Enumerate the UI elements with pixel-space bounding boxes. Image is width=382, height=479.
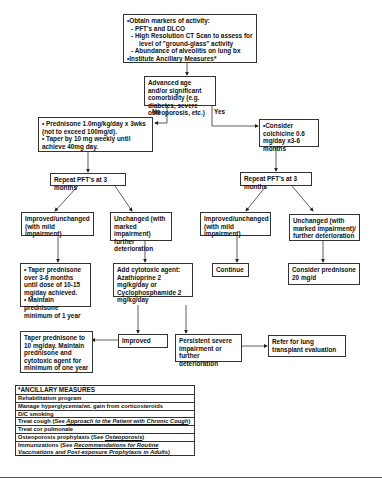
prednisone-box: • Prednisone 1.0mg/kg/day x 3wks (not to…	[38, 117, 153, 152]
yes-label: Yes	[214, 108, 225, 115]
repeat-pft-right: Repeat PFT's at 3 months	[240, 172, 312, 186]
repeat-pft-text: Repeat PFT's at 3 months	[244, 175, 308, 190]
bottom-divider	[0, 477, 382, 478]
ancillary-row: D/C smoking	[16, 411, 194, 419]
right-improved-box: Improved/unchanged (with mild impairment…	[200, 212, 271, 236]
activity-line: - PFT's and DLCO	[127, 25, 253, 33]
taper-line: • Maintain prednisone minimum of 1 year	[24, 296, 87, 319]
cytotoxic-text: Add cytotoxic agent: Azathioprine 2 mg/k…	[117, 266, 189, 304]
continue-text: Continue	[216, 266, 245, 274]
activity-line: •Obtain markers of activity:	[127, 17, 253, 25]
left-unchanged-box: Unchanged (with marked impairment) furth…	[110, 212, 172, 241]
ancillary-row: Treat cor pulmonale	[16, 426, 194, 434]
ancillary-text: )	[188, 418, 190, 424]
improved-small-box: Improved	[118, 334, 168, 348]
chronic-cough-link[interactable]: Approach to the Patient with Chronic Cou…	[66, 418, 188, 424]
persistent-box: Persistent severe impairment or further …	[175, 334, 242, 362]
ancillary-row: Osteoporosis prophylaxis (See Osteoporos…	[16, 434, 194, 442]
consider-prednisone-text: Consider prednisone 20 mg/d	[292, 266, 356, 281]
taper-box: • Taper prednisone over 3-6 months until…	[20, 263, 91, 307]
left-improved-box: Improved/unchanged (with mild impairment…	[21, 212, 94, 236]
unchanged-text: Unchanged (with marked impairment) furth…	[114, 215, 168, 253]
ancillary-row: Immunizations (See Recommendations for R…	[16, 442, 194, 456]
consider-prednisone-box: Consider prednisone 20 mg/d	[288, 263, 360, 285]
ancillary-text: Osteoporosis prophylaxis (See	[18, 434, 105, 440]
improved-small-text: Improved	[122, 337, 164, 345]
improved-text: Improved/unchanged (with mild impairment…	[25, 215, 90, 238]
decision-box: Advanced age and/or significant comorbid…	[144, 76, 216, 106]
ancillary-row: Treat cough (See Approach to the Patient…	[16, 418, 194, 426]
right-unchanged-box: Unchanged (with marked impairment)/ furt…	[289, 214, 360, 241]
ancillary-text: Rehabilitation program	[18, 395, 81, 401]
colchicine-box: •Consider colchicine 0.6 mg/day x3-6 mon…	[259, 119, 319, 147]
ancillary-text: Treat cor pulmonale	[18, 426, 73, 432]
repeat-pft-left: Repeat PFT's at 3 months	[50, 173, 126, 186]
activity-line: •Institute Ancillary Measures*	[127, 55, 253, 63]
taper-line: • Taper prednisone over 3-6 months until…	[24, 266, 87, 296]
transplant-box: Refer for lung transplant evaluation	[268, 335, 346, 357]
colchicine-text: •Consider colchicine 0.6 mg/day x3-6 mon…	[263, 122, 315, 152]
activity-line: - High Resolution CT Scan to assess for	[127, 32, 253, 40]
ancillary-text: Treat cough (See	[18, 418, 66, 424]
ancillary-row: Rehabilitation program	[16, 395, 194, 403]
osteoporosis-link[interactable]: Osteoporosis	[105, 434, 142, 440]
ancillary-text: D/C smoking	[18, 411, 53, 417]
continue-box: Continue	[212, 263, 249, 277]
ancillary-measures-table: *ANCILLARY MEASURES Rehabilitation progr…	[15, 385, 195, 456]
cytotoxic-box: Add cytotoxic agent: Azathioprine 2 mg/k…	[113, 263, 193, 297]
taper10-box: Taper prednisone to 10 mg/day. Maintain …	[20, 331, 93, 373]
ancillary-title: *ANCILLARY MEASURES	[16, 386, 194, 395]
ancillary-text: )	[168, 449, 170, 455]
improved-text: Improved/unchanged (with mild impairment…	[204, 215, 267, 238]
activity-markers-box: •Obtain markers of activity: - PFT's and…	[123, 14, 257, 63]
prednisone-line: • Prednisone 1.0mg/kg/day x 3wks (not to…	[42, 120, 149, 135]
transplant-text: Refer for lung transplant evaluation	[272, 338, 342, 353]
persistent-text: Persistent severe impairment or further …	[179, 337, 238, 367]
ancillary-text: Immunizations (See	[18, 442, 74, 448]
ancillary-text: Manage hyperglycemia/wt. gain from corti…	[18, 403, 163, 409]
ancillary-text: )	[142, 434, 144, 440]
activity-line: level of "ground-glass" activity	[127, 40, 253, 48]
taper10-text: Taper prednisone to 10 mg/day. Maintain …	[24, 334, 89, 372]
no-label: No	[152, 108, 161, 115]
repeat-pft-text: Repeat PFT's at 3 months	[54, 176, 122, 191]
ancillary-row: Manage hyperglycemia/wt. gain from corti…	[16, 403, 194, 411]
activity-line: - Abundance of alveolitis on lung bx	[127, 47, 253, 55]
prednisone-line: • Taper by 10 mg weekly until achieve 40…	[42, 135, 149, 150]
unchanged-text: Unchanged (with marked impairment)/ furt…	[293, 217, 356, 240]
